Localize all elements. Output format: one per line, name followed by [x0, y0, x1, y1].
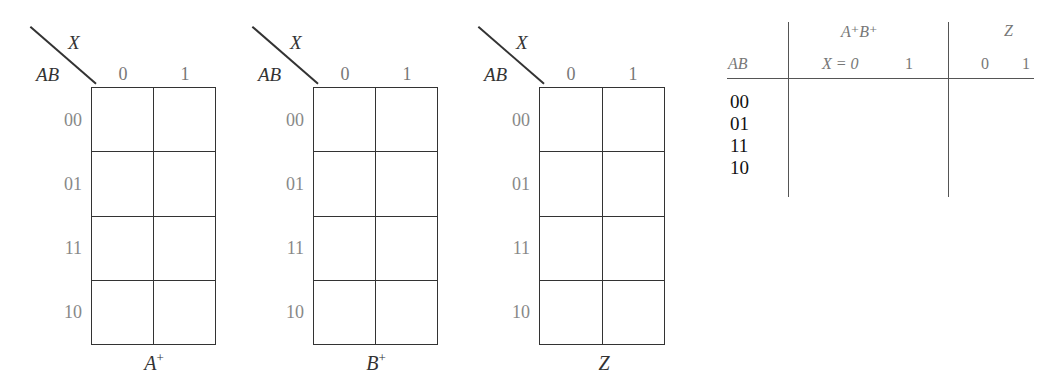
- table-row-10: 10: [730, 157, 749, 179]
- subheader-z0: 0: [981, 55, 989, 73]
- table-header-rule: [727, 78, 1034, 79]
- header-present-state: AB: [728, 55, 748, 73]
- table-row-11: 11: [730, 135, 748, 157]
- table-divider-1: [788, 22, 789, 197]
- subheader-z1: 1: [1022, 55, 1030, 73]
- header-output: Z: [1004, 22, 1013, 40]
- subheader-x0: X = 0: [822, 55, 859, 73]
- table-row-01: 01: [730, 113, 749, 135]
- table-row-00: 00: [730, 91, 749, 113]
- table-divider-2: [948, 22, 949, 197]
- state-table: A⁺B⁺ Z AB X = 0 1 0 1 00 01 11 10: [0, 0, 1060, 391]
- subheader-x1: 1: [905, 55, 913, 73]
- header-next-state: A⁺B⁺: [841, 22, 877, 41]
